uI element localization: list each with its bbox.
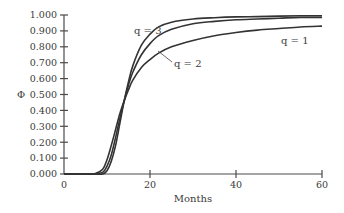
curve-q1 [64,26,322,174]
y-axis-ticks: 0.0000.1000.2000.3000.4000.5000.6000.700… [30,9,68,179]
x-tick-label: 0 [61,179,67,190]
y-tick-label: 0.200 [30,137,57,148]
x-tick-label: 60 [316,179,328,190]
y-tick-label: 0.900 [30,25,57,36]
y-axis-label: Φ [17,89,25,100]
x-tick-label: 40 [230,179,242,190]
annotation-q2-leader [158,51,172,62]
y-tick-label: 0.700 [30,57,57,68]
x-axis-label: Months [174,193,212,204]
annotation-q3: q = 3 [134,25,162,36]
y-tick-label: 0.600 [30,73,57,84]
annotation-q2: q = 2 [174,58,202,69]
y-tick-label: 1.000 [30,9,57,20]
y-tick-label: 0.100 [30,152,57,163]
annotation-q1: q = 1 [281,35,309,46]
line-chart: 0.0000.1000.2000.3000.4000.5000.6000.700… [0,0,344,213]
y-tick-label: 0.500 [30,89,57,100]
y-tick-label: 0.000 [30,168,57,179]
y-tick-label: 0.400 [30,105,57,116]
y-tick-label: 0.300 [30,121,57,132]
x-tick-label: 20 [144,179,156,190]
y-tick-label: 0.800 [30,41,57,52]
